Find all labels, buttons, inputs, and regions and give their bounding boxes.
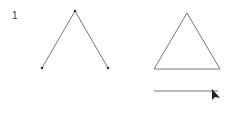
closed-triangle-shape [154, 13, 220, 69]
open-angle-shape [41, 10, 110, 70]
vertex-point [41, 67, 44, 70]
diagram-canvas [0, 0, 244, 114]
vertex-point [107, 67, 110, 70]
vertex-point [74, 10, 77, 13]
